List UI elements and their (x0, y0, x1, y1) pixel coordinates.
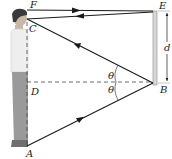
angle-arc-lower (115, 82, 118, 100)
label-theta-lower: θ (108, 84, 114, 95)
diagram-canvas: F C D A E B d θ θ (0, 0, 172, 159)
ray-B-C (27, 19, 153, 83)
ray-E-C (27, 12, 153, 19)
person-figure (11, 9, 28, 147)
angle-arc-upper (115, 65, 118, 82)
label-B: B (159, 84, 167, 95)
mirror-diagram: F C D A E B d θ θ (0, 0, 172, 159)
mirror (153, 11, 157, 85)
label-A: A (25, 148, 33, 159)
ray-A-B (27, 83, 153, 146)
label-F: F (29, 0, 38, 10)
label-E: E (158, 0, 167, 11)
label-C: C (29, 23, 37, 34)
arrow-head (76, 117, 84, 123)
label-theta-upper: θ (108, 70, 114, 81)
arrow-head (72, 8, 81, 14)
ray-F-E (27, 10, 153, 11)
arrow-head (74, 43, 81, 49)
label-D: D (30, 86, 39, 97)
label-d: d (164, 42, 170, 53)
